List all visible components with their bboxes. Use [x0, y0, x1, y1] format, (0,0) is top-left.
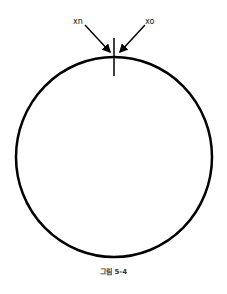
label-xn: xn — [73, 17, 83, 26]
label-xo: xo — [145, 17, 154, 26]
diagram: xn xo — [0, 0, 227, 294]
figure-caption: 그림 5-4 — [0, 266, 227, 276]
circle — [16, 57, 212, 257]
arrow-xo — [120, 25, 145, 52]
arrow-xn — [85, 25, 110, 52]
